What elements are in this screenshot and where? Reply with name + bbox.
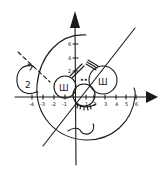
left-eye-glyph: Ш xyxy=(59,83,69,93)
y-axis-arrow-icon xyxy=(70,11,80,28)
svg-text:6: 6 xyxy=(135,101,138,107)
left-ear-glyph: 2 xyxy=(25,80,31,90)
svg-text:4: 4 xyxy=(68,55,71,61)
mouth xyxy=(68,124,94,134)
y-axis xyxy=(75,24,76,165)
nose-dots: •• xyxy=(80,76,88,83)
svg-text:-3: -3 xyxy=(40,101,45,107)
svg-text:-4: -4 xyxy=(29,101,34,107)
right-eye-glyph: Ш xyxy=(98,77,108,87)
head-outline xyxy=(37,35,136,140)
x-axis-arrow-icon xyxy=(146,91,158,103)
svg-text:3: 3 xyxy=(104,101,107,107)
nose-circle xyxy=(73,84,95,106)
svg-text:2: 2 xyxy=(68,68,71,74)
diagonal-line xyxy=(43,28,135,146)
svg-text:4: 4 xyxy=(115,101,118,107)
y-tick-labels: 6 4 2 xyxy=(68,41,71,74)
svg-text:6: 6 xyxy=(68,41,71,47)
left-ear-arrow-icon xyxy=(28,64,33,70)
face-on-graph-diagram: -4 -3 -2 -1 1 2 3 4 5 6 6 4 2 2 Ш Ш •• xyxy=(0,0,166,174)
svg-text:-2: -2 xyxy=(51,101,56,107)
eyebrow-hatch xyxy=(86,60,98,70)
svg-text:-1: -1 xyxy=(62,101,67,107)
svg-text:5: 5 xyxy=(125,101,128,107)
drawing-canvas: -4 -3 -2 -1 1 2 3 4 5 6 6 4 2 2 Ш Ш •• xyxy=(0,0,166,174)
